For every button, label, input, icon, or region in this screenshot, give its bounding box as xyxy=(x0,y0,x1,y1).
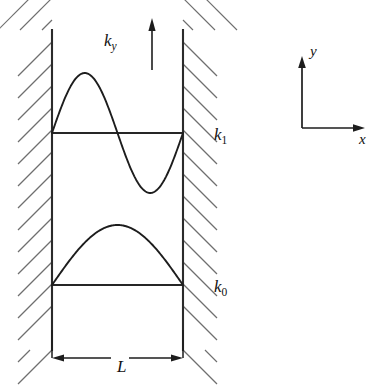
dimension-arrow-head-right xyxy=(171,354,183,361)
hatch-stroke xyxy=(183,86,217,120)
hatch-stroke xyxy=(18,350,52,384)
hatch-stroke xyxy=(183,350,217,384)
hatch-stroke xyxy=(0,0,52,30)
hatch-stroke xyxy=(18,108,52,142)
hatch-stroke xyxy=(183,174,217,208)
hatch-stroke xyxy=(18,64,52,98)
ky-label: ky xyxy=(104,31,118,53)
hatch-stroke xyxy=(183,262,217,296)
hatch-stroke xyxy=(205,350,217,362)
wavefunction-curve-k0 xyxy=(52,225,183,285)
hatch-stroke xyxy=(183,306,217,340)
hatch-stroke xyxy=(42,20,52,30)
hatch-stroke xyxy=(18,174,52,208)
coordinate-axes xyxy=(298,56,365,132)
figure-labels: k1 k0 ky L y x xyxy=(104,31,366,376)
hatch-stroke xyxy=(183,218,217,252)
y-axis-arrow-head xyxy=(298,56,306,68)
hatch-stroke xyxy=(18,130,52,164)
hatch-stroke xyxy=(18,284,52,318)
quantum-well-figure: k1 k0 ky L y x xyxy=(0,0,391,385)
level-label-k0: k0 xyxy=(214,277,228,298)
hatch-stroke xyxy=(18,306,52,340)
well-width-label: L xyxy=(116,357,126,376)
hatch-stroke xyxy=(183,130,217,164)
dimension-arrow-head-left xyxy=(52,354,64,361)
hatch-stroke xyxy=(183,64,217,98)
left-wall-hatching xyxy=(0,0,52,384)
hatch-stroke xyxy=(183,42,217,76)
hatch-stroke xyxy=(18,262,52,296)
hatch-stroke xyxy=(18,196,52,230)
hatch-stroke xyxy=(183,196,217,230)
right-wall-hatching xyxy=(183,0,237,384)
level-label-k1: k1 xyxy=(214,125,228,146)
hatch-stroke xyxy=(18,42,52,76)
figure-canvas: k1 k0 ky L y x xyxy=(0,0,391,385)
hatch-stroke xyxy=(183,152,217,186)
hatch-stroke xyxy=(18,240,52,274)
hatch-stroke xyxy=(183,20,193,30)
hatch-stroke xyxy=(18,350,30,362)
ky-arrow-head xyxy=(148,18,155,31)
x-axis-label: x xyxy=(358,131,366,147)
hatch-stroke xyxy=(18,152,52,186)
hatch-stroke xyxy=(183,284,217,318)
hatch-stroke xyxy=(183,240,217,274)
ky-arrow xyxy=(148,18,155,70)
hatch-stroke xyxy=(183,108,217,142)
y-axis-label: y xyxy=(308,43,317,59)
hatch-stroke xyxy=(18,218,52,252)
hatch-stroke xyxy=(18,86,52,120)
